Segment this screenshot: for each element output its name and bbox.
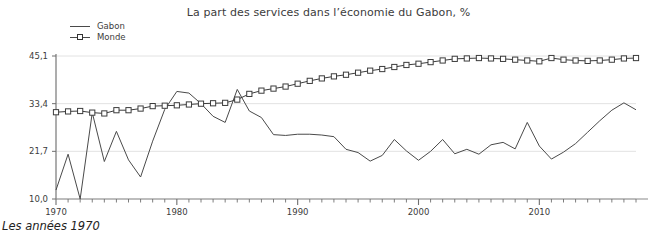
series-marker-monde: [90, 110, 95, 115]
series-marker-monde: [150, 104, 155, 109]
chart-legend: Gabon Monde: [68, 21, 126, 43]
series-marker-monde: [295, 81, 300, 86]
chart-title: La part des services dans l’économie du …: [0, 6, 657, 19]
series-marker-monde: [513, 57, 518, 62]
series-marker-monde: [476, 55, 481, 60]
series-marker-monde: [78, 108, 83, 113]
series-marker-monde: [235, 97, 240, 102]
series-marker-monde: [283, 84, 288, 89]
x-axis-tick-label: 1980: [166, 207, 188, 217]
series-marker-monde: [416, 61, 421, 66]
series-marker-monde: [198, 101, 203, 106]
series-marker-monde: [174, 103, 179, 108]
series-marker-monde: [343, 72, 348, 77]
series-marker-monde: [126, 108, 131, 113]
legend-line-swatch-gabon: [68, 21, 92, 32]
series-marker-monde: [380, 66, 385, 71]
series-marker-monde: [319, 76, 324, 81]
series-marker-monde: [597, 58, 602, 63]
series-marker-monde: [210, 101, 215, 106]
series-marker-monde: [464, 56, 469, 61]
series-marker-monde: [162, 103, 167, 108]
legend-item-gabon: Gabon: [68, 21, 126, 32]
series-marker-monde: [621, 56, 626, 61]
x-axis-tick-label: 1970: [45, 207, 67, 217]
series-marker-monde: [537, 59, 542, 64]
x-axis-tick-label: 2000: [408, 207, 430, 217]
x-axis-tick-label: 1990: [287, 207, 309, 217]
series-marker-monde: [500, 56, 505, 61]
series-marker-monde: [549, 55, 554, 60]
series-marker-monde: [331, 74, 336, 79]
chart-figure: La part des services dans l’économie du …: [0, 0, 657, 238]
legend-line-swatch-monde: [68, 32, 92, 43]
legend-label-gabon: Gabon: [97, 21, 125, 32]
series-marker-monde: [65, 109, 70, 114]
series-marker-monde: [633, 55, 638, 60]
series-marker-monde: [271, 86, 276, 91]
series-marker-monde: [247, 91, 252, 96]
series-marker-monde: [53, 110, 58, 115]
series-marker-monde: [307, 78, 312, 83]
y-axis-tick-label: 10,0: [8, 194, 48, 204]
series-marker-monde: [392, 64, 397, 69]
series-marker-monde: [573, 58, 578, 63]
y-axis-tick-label: 21,7: [8, 146, 48, 156]
series-marker-monde: [488, 56, 493, 61]
series-marker-monde: [223, 100, 228, 105]
series-marker-monde: [525, 58, 530, 63]
series-marker-monde: [452, 56, 457, 61]
y-axis-tick-label: 33,4: [8, 99, 48, 109]
series-marker-monde: [561, 57, 566, 62]
series-marker-monde: [404, 62, 409, 67]
series-marker-monde: [186, 102, 191, 107]
series-marker-monde: [609, 57, 614, 62]
y-axis-tick-label: 45,1: [8, 51, 48, 61]
series-marker-monde: [259, 88, 264, 93]
series-marker-monde: [368, 68, 373, 73]
series-marker-monde: [138, 106, 143, 111]
series-marker-monde: [114, 108, 119, 113]
series-marker-monde: [440, 58, 445, 63]
figure-caption: Les années 1970: [2, 219, 100, 233]
series-marker-monde: [355, 70, 360, 75]
legend-item-monde: Monde: [68, 32, 126, 43]
x-axis-tick-label: 2010: [529, 207, 551, 217]
series-line-monde: [56, 58, 636, 113]
series-marker-monde: [585, 58, 590, 63]
legend-label-monde: Monde: [97, 32, 126, 43]
series-marker-monde: [428, 60, 433, 65]
series-marker-monde: [102, 111, 107, 116]
